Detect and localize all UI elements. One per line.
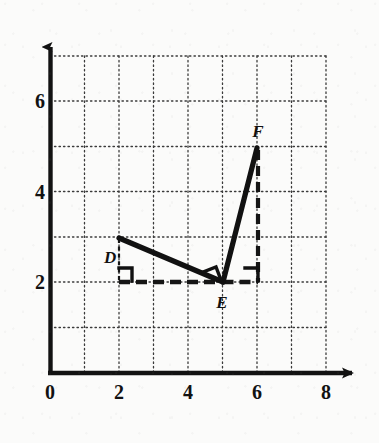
point-label-F: F	[251, 122, 264, 141]
coordinate-plane: 0 2 4 6 8 6 4 2 D E F	[0, 0, 379, 443]
x-tick-label-4: 4	[183, 381, 193, 403]
segment-EF[interactable]	[223, 148, 257, 282]
graph-figure: 0 2 4 6 8 6 4 2 D E F	[0, 0, 379, 443]
y-axis-tick-labels: 6 4 2	[35, 90, 45, 293]
point-label-D: D	[103, 248, 116, 267]
segment-DE[interactable]	[119, 238, 223, 282]
x-tick-label-6: 6	[252, 381, 262, 403]
y-tick-label-4: 4	[35, 181, 45, 203]
y-tick-label-2: 2	[35, 271, 45, 293]
y-tick-label-6: 6	[35, 90, 45, 112]
right-angle-at-D-foot	[119, 268, 132, 281]
x-tick-label-2: 2	[114, 381, 124, 403]
axes	[48, 47, 352, 373]
x-tick-label-8: 8	[321, 381, 331, 403]
point-label-E: E	[215, 293, 227, 312]
x-axis-tick-labels: 0 2 4 6 8	[45, 381, 331, 403]
x-tick-label-0: 0	[45, 381, 55, 403]
grid-lines	[50, 56, 326, 373]
